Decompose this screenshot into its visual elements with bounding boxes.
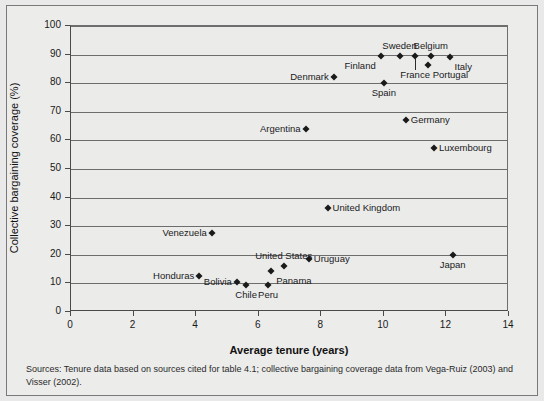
data-point-venezuela[interactable]: [208, 230, 215, 237]
point-label-portugal: Portugal: [433, 70, 468, 80]
x-tick-mark-14: [508, 311, 509, 316]
x-tick-label-4: 4: [192, 320, 198, 330]
data-point-united-kingdom[interactable]: [324, 204, 331, 211]
x-tick-label-0: 0: [67, 320, 73, 330]
point-label-panama: Panama: [276, 276, 311, 286]
data-point-germany[interactable]: [402, 117, 409, 124]
gridline-y-100: [71, 26, 507, 27]
y-tick-label-100: 100: [44, 20, 61, 30]
data-point-denmark[interactable]: [330, 74, 337, 81]
data-point-portugal[interactable]: [424, 61, 431, 68]
y-tick-label-50: 50: [50, 163, 61, 173]
x-tick-mark-4: [195, 311, 196, 316]
gridline-y-80: [71, 83, 507, 84]
x-tick-label-10: 10: [377, 320, 388, 330]
point-label-france: France: [400, 70, 430, 80]
data-point-sweden[interactable]: [396, 52, 403, 59]
x-axis-title: Average tenure (years): [230, 344, 349, 356]
point-label-honduras: Honduras: [153, 272, 194, 282]
point-label-belgium: Belgium: [414, 41, 448, 51]
y-tick-label-60: 60: [50, 134, 61, 144]
x-tick-label-12: 12: [440, 320, 451, 330]
x-tick-label-2: 2: [130, 320, 136, 330]
point-label-luxembourg: Luxembourg: [439, 143, 492, 153]
data-point-honduras[interactable]: [196, 273, 203, 280]
x-tick-mark-2: [133, 311, 134, 316]
data-point-argentina[interactable]: [302, 125, 309, 132]
leader-line-france: [415, 58, 416, 70]
scatter-plot-area: SwedenBelgiumItalyFinlandFrancePortugalD…: [70, 25, 508, 311]
gridline-y-90: [71, 55, 507, 56]
data-point-spain[interactable]: [380, 80, 387, 87]
point-label-chile: Chile: [235, 290, 257, 300]
y-tick-label-0: 0: [55, 306, 61, 316]
x-tick-mark-8: [320, 311, 321, 316]
data-point-japan[interactable]: [449, 251, 456, 258]
point-label-uruguay: Uruguay: [314, 254, 350, 264]
x-tick-mark-10: [383, 311, 384, 316]
point-label-germany: Germany: [411, 116, 450, 126]
point-label-united-states: United States: [255, 251, 312, 261]
y-axis-title: Collective bargaining coverage (%): [8, 83, 20, 254]
gridline-y-50: [71, 169, 507, 170]
x-tick-label-8: 8: [318, 320, 324, 330]
y-tick-label-30: 30: [50, 220, 61, 230]
gridline-y-40: [71, 198, 507, 199]
x-tick-mark-0: [70, 311, 71, 316]
point-label-spain: Spain: [372, 88, 396, 98]
x-tick-label-6: 6: [255, 320, 261, 330]
data-point-united-states[interactable]: [280, 263, 287, 270]
y-tick-label-10: 10: [50, 277, 61, 287]
point-label-venezuela: Venezuela: [162, 229, 206, 239]
data-point-luxembourg[interactable]: [430, 144, 437, 151]
y-tick-label-70: 70: [50, 106, 61, 116]
point-label-peru: Peru: [258, 290, 278, 300]
point-label-sweden: Sweden: [382, 41, 416, 51]
x-tick-mark-12: [445, 311, 446, 316]
point-label-argentina: Argentina: [260, 124, 301, 134]
data-point-panama[interactable]: [268, 267, 275, 274]
point-label-denmark: Denmark: [290, 73, 329, 83]
point-label-finland: Finland: [345, 61, 376, 71]
data-point-chile[interactable]: [243, 281, 250, 288]
gridline-y-70: [71, 112, 507, 113]
data-point-italy[interactable]: [446, 54, 453, 61]
x-tick-mark-6: [258, 311, 259, 316]
data-point-belgium[interactable]: [427, 52, 434, 59]
data-point-peru[interactable]: [265, 281, 272, 288]
point-label-japan: Japan: [440, 260, 466, 270]
data-point-finland[interactable]: [377, 52, 384, 59]
point-label-bolivia: Bolivia: [204, 277, 232, 287]
x-tick-label-14: 14: [502, 320, 513, 330]
data-point-bolivia[interactable]: [233, 278, 240, 285]
point-label-united-kingdom: United Kingdom: [333, 203, 401, 213]
y-tick-label-80: 80: [50, 77, 61, 87]
source-note: Sources: Tenure data based on sources ci…: [26, 363, 516, 389]
y-tick-label-20: 20: [50, 249, 61, 259]
gridline-y-30: [71, 226, 507, 227]
y-tick-label-40: 40: [50, 192, 61, 202]
y-tick-label-90: 90: [50, 49, 61, 59]
figure-container: Collective bargaining coverage (%) Avera…: [0, 0, 544, 401]
